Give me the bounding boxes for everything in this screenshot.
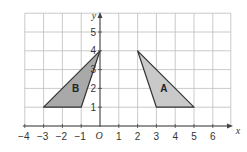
- x-tick-label: −1: [74, 131, 86, 142]
- x-axis-arrow-icon: [227, 124, 233, 129]
- x-tick-label: 5: [191, 131, 197, 142]
- y-tick-label: 3: [90, 64, 96, 75]
- y-tick-label: 2: [90, 83, 96, 94]
- y-tick-label: 5: [90, 27, 96, 38]
- y-tick-label: 4: [90, 45, 96, 56]
- origin-label: O: [95, 130, 102, 141]
- x-tick-label: −3: [37, 131, 49, 142]
- x-tick-label: −4: [18, 131, 30, 142]
- x-tick-label: 1: [116, 131, 122, 142]
- y-axis-label: y: [91, 10, 97, 21]
- axis-labels: −4−3−2−112345612345Oxy: [18, 10, 241, 142]
- x-tick-label: 2: [135, 131, 141, 142]
- triangle-b: [44, 51, 100, 107]
- x-tick-label: 4: [172, 131, 178, 142]
- x-tick-label: 3: [154, 131, 160, 142]
- grid-lines: [25, 13, 231, 126]
- x-tick-label: 6: [210, 131, 216, 142]
- x-axis-label: x: [235, 125, 241, 136]
- triangle-a: [138, 51, 194, 107]
- axes: [23, 12, 233, 129]
- coordinate-grid-diagram: AB −4−3−2−112345612345Oxy: [0, 0, 247, 152]
- y-tick-label: 1: [90, 102, 96, 113]
- triangle-label-a: A: [160, 83, 167, 94]
- triangle-label-b: B: [72, 83, 79, 94]
- x-tick-label: −2: [56, 131, 68, 142]
